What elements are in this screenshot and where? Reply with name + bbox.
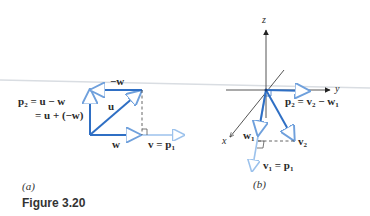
label-x-axis: x — [222, 136, 226, 146]
label-y-axis: y — [335, 84, 339, 94]
label-v-p1-main: v = p — [148, 138, 171, 150]
vector-u — [91, 91, 141, 134]
vector-p2-b — [266, 90, 309, 91]
label-v-p1-sub: 1 — [171, 144, 175, 152]
b-p2-eq: = v — [295, 95, 312, 107]
label-u: u — [108, 101, 114, 112]
label-v2: v2 — [298, 136, 307, 149]
b-p2-minus: − w — [315, 95, 335, 107]
panel-b-label: (b) — [253, 178, 266, 190]
label-w: w — [112, 139, 120, 150]
b-w1-sub: 1 — [251, 135, 255, 143]
label-v-p1: v = p1 — [148, 139, 175, 152]
label-neg-w: −w — [110, 76, 124, 87]
label-v1-p1: v1 = p1 — [263, 160, 293, 173]
b-v1-eq-sub: 1 — [290, 165, 294, 173]
label-p2-eq-b: p2 = v2 − w1 — [285, 96, 339, 109]
b-p2-minus-sub: 1 — [335, 101, 339, 109]
figure-caption: Figure 3.20 — [22, 196, 85, 210]
b-v1-eq: = p — [272, 159, 290, 171]
b-v2-sub: 2 — [304, 141, 308, 149]
label-z-axis: z — [262, 15, 266, 25]
right-angle-mark-b — [257, 141, 264, 148]
origin-point — [265, 89, 268, 92]
b-w1-main: w — [243, 129, 251, 141]
panel-a-diagram — [90, 90, 184, 135]
right-angle-mark — [142, 129, 147, 135]
label-w1: w1 — [243, 130, 254, 143]
panel-a-label: (a) — [22, 180, 35, 192]
eq-p2-rhs1: = u − w — [28, 95, 66, 107]
equation-p2-line1: p2 = u − w — [18, 96, 65, 109]
x-axis — [230, 70, 284, 137]
equation-p2-line2: = u + (−w) — [35, 110, 83, 121]
